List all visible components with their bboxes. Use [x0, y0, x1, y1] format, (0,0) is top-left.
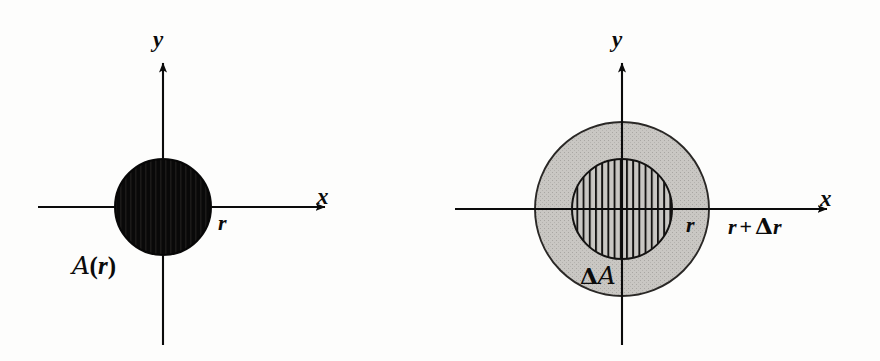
region-label-area-of-r: A(r) [72, 253, 116, 278]
region-variable-r: r [98, 252, 108, 279]
outer-radius-delta-var-r: r [773, 214, 782, 239]
y-axis-label-right: y [612, 28, 622, 51]
region-label-delta-area: ΔA [580, 263, 615, 288]
outer-radius-var-r: r [728, 214, 737, 239]
area-disc-left-overlay [115, 159, 211, 255]
script-a-glyph-region: A [598, 261, 616, 290]
close-paren-glyph: ) [108, 252, 116, 279]
figure-panel-right: x y r r+Δr ΔA [440, 0, 880, 361]
delta-icon-region: Δ [580, 262, 598, 289]
x-axis-label-right: x [820, 187, 832, 210]
figure-root: x y r A(r) [0, 0, 880, 361]
delta-icon: Δ [755, 212, 773, 239]
script-a-glyph: A [72, 251, 90, 280]
x-axis-label-left: x [317, 185, 329, 208]
open-paren-glyph: ( [90, 252, 98, 279]
figure-panel-left: x y r A(r) [0, 0, 440, 361]
plus-sign-glyph: + [737, 214, 756, 239]
radius-label-inner-right: r [686, 214, 695, 236]
right-panel-graphic [440, 0, 880, 361]
radius-label-left: r [218, 212, 227, 234]
y-axis-label-left: y [153, 28, 163, 51]
left-panel-graphic [0, 0, 440, 361]
radius-label-outer-right: r+Δr [728, 214, 782, 238]
